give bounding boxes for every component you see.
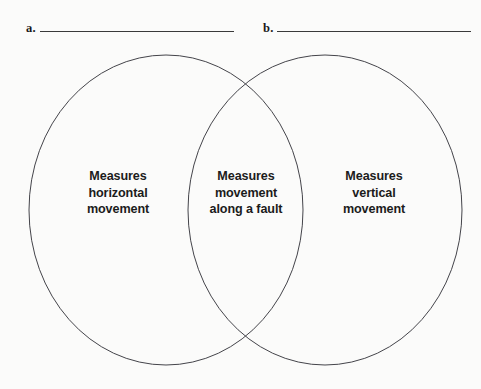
venn-label-center-line-3: along a fault [190, 201, 302, 218]
venn-diagram: Measures horizontal movement Measures mo… [0, 0, 481, 389]
venn-label-left-line-3: movement [62, 201, 174, 218]
venn-label-left: Measures horizontal movement [62, 168, 174, 218]
venn-label-right-line-1: Measures [318, 168, 430, 185]
venn-label-right-line-3: movement [318, 201, 430, 218]
venn-label-left-line-2: horizontal [62, 185, 174, 202]
venn-label-center: Measures movement along a fault [190, 168, 302, 218]
venn-label-right: Measures vertical movement [318, 168, 430, 218]
venn-label-center-line-2: movement [190, 185, 302, 202]
venn-label-left-line-1: Measures [62, 168, 174, 185]
venn-label-center-line-1: Measures [190, 168, 302, 185]
worksheet-page: a. b. Measures horizontal movement Measu… [0, 0, 481, 389]
venn-label-right-line-2: vertical [318, 185, 430, 202]
